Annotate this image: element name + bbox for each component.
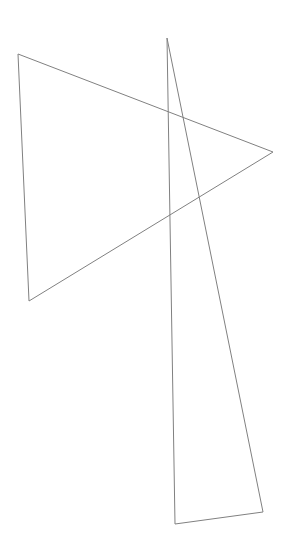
- triangles-figure: [0, 0, 289, 547]
- figure-canvas: [0, 0, 289, 547]
- background-rect: [0, 0, 289, 547]
